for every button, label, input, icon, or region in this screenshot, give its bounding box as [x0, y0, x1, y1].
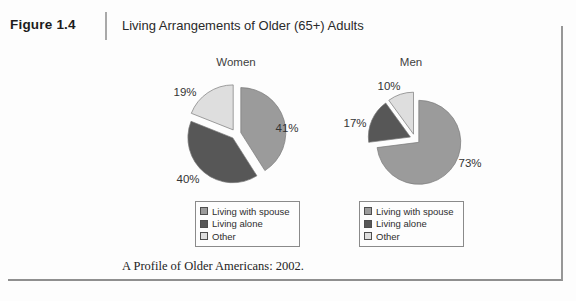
men-legend: Living with spouse Living alone Other — [359, 201, 464, 247]
legend-swatch-other — [364, 232, 372, 240]
pie-percent-label: 41% — [275, 122, 298, 134]
pie-percent-label: 40% — [176, 173, 199, 185]
legend-item: Living alone — [200, 218, 296, 231]
pie-slice-other — [191, 85, 233, 130]
pie-percent-label: 17% — [343, 117, 366, 129]
legend-label: Living alone — [376, 218, 427, 229]
pie-percent-label: 10% — [377, 80, 400, 92]
legend-swatch-spouse — [364, 207, 372, 215]
legend-swatch-alone — [200, 220, 208, 228]
pie-percent-label: 73% — [458, 157, 481, 169]
men-pie: 73%17%10% — [343, 80, 481, 184]
legend-label: Other — [376, 231, 400, 242]
pie-percent-label: 19% — [173, 86, 196, 98]
legend-swatch-spouse — [200, 207, 208, 215]
women-pie: 41%40%19% — [173, 85, 298, 185]
pie-charts-canvas: 41%40%19%73%17%10% — [0, 0, 576, 301]
women-legend: Living with spouse Living alone Other — [195, 201, 300, 247]
legend-item: Other — [200, 230, 296, 243]
legend-item: Living with spouse — [364, 205, 460, 218]
legend-label: Living with spouse — [212, 206, 290, 217]
legend-label: Living with spouse — [376, 206, 454, 217]
legend-label: Other — [212, 231, 236, 242]
legend-swatch-alone — [364, 220, 372, 228]
legend-item: Other — [364, 230, 460, 243]
source-citation: A Profile of Older Americans: 2002. — [122, 259, 304, 274]
legend-label: Living alone — [212, 218, 263, 229]
legend-item: Living with spouse — [200, 205, 296, 218]
legend-swatch-other — [200, 232, 208, 240]
figure-page: Figure 1.4 Living Arrangements of Older … — [0, 0, 576, 301]
legend-item: Living alone — [364, 218, 460, 231]
